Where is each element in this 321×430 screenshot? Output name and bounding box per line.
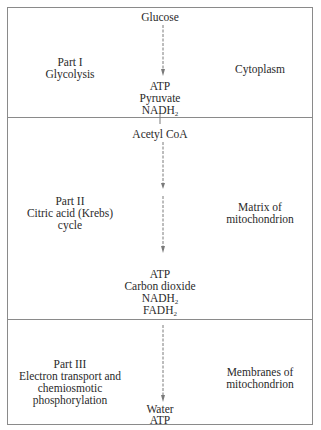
arrow-glucose-to-products (159, 25, 160, 77)
arrow-acetyl-coa-down (159, 142, 160, 190)
subscript: 2 (173, 310, 177, 318)
arrow-down-icon (159, 196, 167, 254)
part-1-output-atp: ATP (110, 80, 210, 92)
arrow-to-krebs-products (159, 196, 160, 254)
part-2-location-line-2: mitochondrion (200, 213, 320, 225)
part-2-location-line-1: Matrix of (200, 201, 320, 213)
part-2-name-line-2: cycle (10, 219, 130, 231)
part-2-output-atp: ATP (110, 268, 210, 280)
part-2-output-fadh2: FADH2 (110, 304, 210, 316)
part-1-name: Glycolysis (10, 68, 130, 80)
section-divider-2 (7, 319, 313, 320)
part-1-output-pyruvate: Pyruvate (110, 92, 210, 104)
acetyl-coa-label: Acetyl CoA (110, 128, 210, 140)
part-1-label: Part I (10, 56, 130, 68)
part-3-name-line-1: Electron transport and (10, 370, 130, 382)
part-3-output-atp: ATP (110, 414, 210, 426)
part-2-output-co2: Carbon dioxide (110, 280, 210, 292)
part-2-label: Part II (10, 195, 130, 207)
part-1-location: Cytoplasm (200, 63, 320, 75)
part-3-name-line-2: chemiosmotic (10, 382, 130, 394)
arrow-down-icon (159, 142, 167, 190)
glucose-label: Glucose (110, 11, 210, 23)
arrow-down-icon (159, 25, 167, 77)
connector-line-1 (159, 114, 160, 124)
arrow-to-etc-products (159, 325, 160, 403)
part-2-name-line-1: Citric acid (Krebs) (10, 207, 130, 219)
nadh-text: NADH (142, 292, 175, 304)
part-2-output-nadh2: NADH2 (110, 292, 210, 304)
subscript: 2 (175, 110, 179, 118)
arrow-down-icon (159, 325, 167, 403)
part-3-label: Part III (10, 358, 130, 370)
part-3-location-line-1: Membranes of (200, 366, 320, 378)
part-3-location-line-2: mitochondrion (200, 378, 320, 390)
fadh-text: FADH (143, 304, 173, 316)
